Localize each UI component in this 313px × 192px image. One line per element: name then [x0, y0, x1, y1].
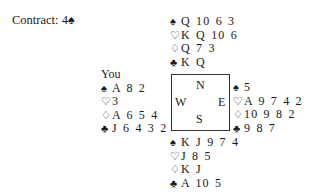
diamond-icon: ♢ [233, 108, 244, 122]
west-hand: You ♠A 8 2 ♡3 ♢A 6 5 4 ♣J 6 4 3 2 [101, 68, 167, 136]
east-diamonds: 10 9 8 2 [244, 107, 296, 121]
west-hearts-row: ♡3 [101, 95, 167, 109]
north-clubs: K Q [181, 55, 206, 69]
heart-icon: ♡ [170, 150, 181, 164]
club-icon: ♣ [170, 56, 181, 70]
north-hearts: K Q 10 6 [181, 28, 238, 42]
south-clubs-row: ♣A 10 5 [170, 177, 239, 191]
south-diamonds: K J [181, 162, 202, 176]
west-spades: A 8 2 [112, 81, 146, 95]
south-diamonds-row: ♢K J [170, 163, 239, 177]
compass-east: E [218, 95, 225, 110]
north-spades: Q 10 6 3 [181, 14, 235, 28]
spade-icon: ♠ [233, 81, 244, 95]
west-hearts: 3 [112, 94, 119, 108]
east-clubs: 9 8 7 [244, 121, 276, 135]
north-hand: ♠Q 10 6 3 ♡K Q 10 6 ♢Q 7 3 ♣K Q [170, 15, 238, 69]
south-hand: ♠K J 9 7 4 ♡J 8 5 ♢K J ♣A 10 5 [170, 136, 239, 190]
north-clubs-row: ♣K Q [170, 56, 238, 70]
west-diamonds: A 6 5 4 [112, 108, 158, 122]
south-spades: K J 9 7 4 [181, 135, 239, 149]
club-icon: ♣ [233, 122, 244, 136]
heart-icon: ♡ [101, 95, 112, 109]
east-spades: 5 [244, 80, 251, 94]
contract-label: Contract: 4♠ [12, 13, 75, 28]
east-diamonds-row: ♢10 9 8 2 [233, 108, 303, 122]
heart-icon: ♡ [233, 95, 244, 109]
north-hearts-row: ♡K Q 10 6 [170, 29, 238, 43]
north-spades-row: ♠Q 10 6 3 [170, 15, 238, 29]
club-icon: ♣ [101, 122, 112, 136]
west-player-label: You [101, 68, 167, 82]
club-icon: ♣ [170, 177, 181, 191]
south-clubs: A 10 5 [181, 176, 222, 190]
west-clubs: J 6 4 3 2 [112, 121, 167, 135]
diamond-icon: ♢ [170, 163, 181, 177]
west-spades-row: ♠A 8 2 [101, 82, 167, 96]
spade-icon: ♠ [170, 15, 181, 29]
south-hearts-row: ♡J 8 5 [170, 150, 239, 164]
west-clubs-row: ♣J 6 4 3 2 [101, 122, 167, 136]
east-hearts-row: ♡A 9 7 4 2 [233, 95, 303, 109]
spade-icon: ♠ [101, 82, 112, 96]
east-clubs-row: ♣9 8 7 [233, 122, 303, 136]
east-spades-row: ♠5 [233, 81, 303, 95]
south-hearts: J 8 5 [181, 149, 212, 163]
diamond-icon: ♢ [101, 109, 112, 123]
north-diamonds: Q 7 3 [181, 41, 216, 55]
north-diamonds-row: ♢Q 7 3 [170, 42, 238, 56]
heart-icon: ♡ [170, 29, 181, 43]
compass-south: S [196, 112, 203, 127]
compass-west: W [175, 95, 186, 110]
spade-icon: ♠ [170, 136, 181, 150]
south-spades-row: ♠K J 9 7 4 [170, 136, 239, 150]
west-diamonds-row: ♢A 6 5 4 [101, 109, 167, 123]
east-hearts: A 9 7 4 2 [244, 94, 303, 108]
compass-box: N W E S [171, 74, 230, 131]
diamond-icon: ♢ [170, 42, 181, 56]
compass-north: N [196, 78, 205, 93]
east-hand: ♠5 ♡A 9 7 4 2 ♢10 9 8 2 ♣9 8 7 [233, 81, 303, 135]
